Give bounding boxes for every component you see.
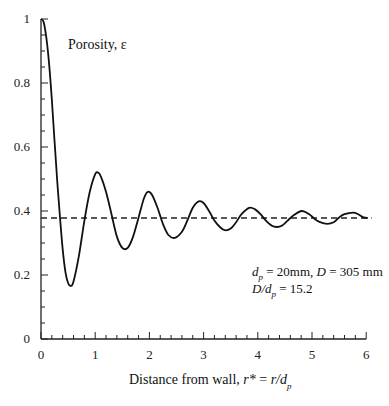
x-tick-label: 0 [38,347,45,362]
x-tick-label: 4 [255,347,262,362]
axes [41,19,366,339]
porosity-curve [41,19,368,286]
x-tick-label: 3 [200,347,207,362]
y-tick-label: 0.2 [14,267,30,282]
annotation-diameter-ratio: D/dp = 15.2 [251,281,313,299]
y-tick-label: 0 [24,331,31,346]
porosity-chart: 012345600.20.40.60.81 Porosity, ε dp = 2… [0,0,389,406]
axis-tick-labels: 012345600.20.40.60.81 [14,11,370,362]
y-tick-label: 0.8 [14,75,30,90]
annotation-particle-size: dp = 20mm, D = 305 mm [252,264,383,282]
y-axis-label: Porosity, ε [68,37,127,52]
y-tick-label: 0.4 [14,203,31,218]
x-axis-label: Distance from wall, r* = r/dp [129,372,292,391]
x-tick-label: 2 [146,347,153,362]
y-tick-label: 1 [24,11,31,26]
x-tick-label: 1 [92,347,99,362]
y-tick-label: 0.6 [14,139,31,154]
x-tick-label: 5 [309,347,316,362]
x-tick-label: 6 [363,347,370,362]
axis-ticks [41,19,366,339]
